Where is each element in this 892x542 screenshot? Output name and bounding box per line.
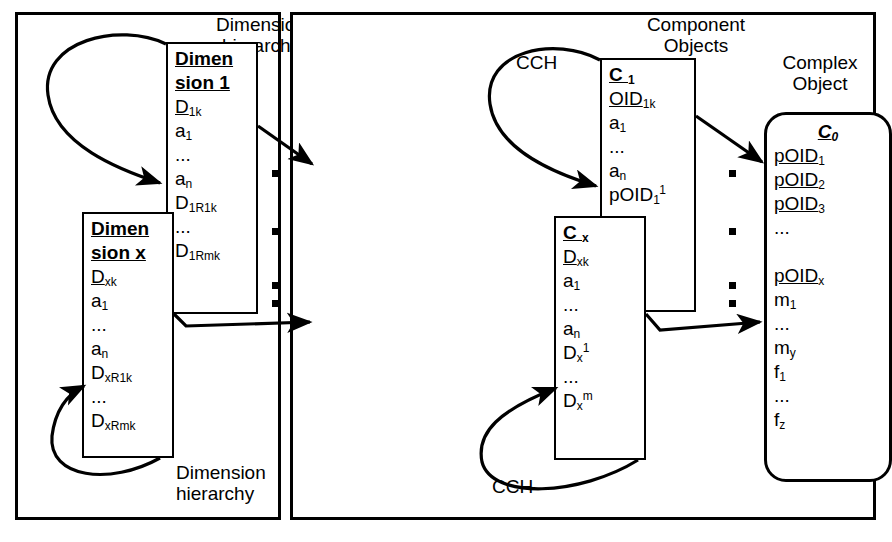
caption-component-objects: Component Objects	[626, 14, 766, 56]
component-cx-box: C xDxka1...anDx1...Dxm	[554, 216, 646, 460]
ellipsis-dot	[729, 300, 736, 307]
ellipsis-dot	[729, 282, 736, 289]
component-c1-field: a1	[609, 111, 694, 135]
dimension-1-field: a1	[175, 119, 256, 143]
ellipsis-dot	[729, 228, 736, 235]
dimension-1-field: ...	[175, 215, 256, 239]
complex-object-c0-field: pOID1	[774, 144, 889, 168]
complex-object-c0-field: pOIDx	[774, 264, 889, 288]
dimension-x-field: ...	[91, 313, 172, 337]
dimension-x-field: an	[91, 337, 172, 361]
dimension-1-field: ...	[175, 143, 256, 167]
ellipsis-dot	[729, 170, 736, 177]
complex-object-c0-field: my	[774, 336, 889, 360]
component-cx-fields: C xDxka1...anDx1...Dxm	[556, 218, 644, 413]
component-cx-field: Dxk	[563, 245, 644, 269]
dimension-1-field: an	[175, 167, 256, 191]
complex-object-c0-field: fz	[774, 408, 889, 432]
ellipsis-dot	[272, 300, 279, 307]
dimension-1-fields: Dimension 1D1ka1...anD1R1k...D1Rmk	[168, 44, 256, 263]
component-cx-field: Dx1	[563, 341, 644, 365]
component-c1-field: pOID11	[609, 183, 694, 207]
dimension-1-title-line: Dimen	[175, 47, 256, 71]
dimension-1-title-line: sion 1	[175, 71, 256, 95]
dimension-x-fields: Dimension xDxka1...anDxR1k...DxRmk	[84, 214, 172, 433]
dimension-x-field: DxRmk	[91, 409, 172, 433]
dimension-1-field: D1R1k	[175, 191, 256, 215]
component-c1-field: OID1k	[609, 87, 694, 111]
complex-object-c0-field: pOID3	[774, 192, 889, 216]
complex-object-box: C0 pOID1pOID2pOID3... pOIDxm1...myf1...f…	[764, 112, 892, 482]
component-c1-title: C 1	[609, 63, 694, 87]
label-cch-top: CCH	[516, 52, 557, 73]
complex-object-c0-field: ...	[774, 312, 889, 336]
complex-object-c0-field: pOID2	[774, 168, 889, 192]
dimension-x-field: a1	[91, 289, 172, 313]
dimension-1-field: D1Rmk	[175, 239, 256, 263]
dimension-x-title-line: sion x	[91, 241, 172, 265]
dimension-x-field: Dxk	[91, 265, 172, 289]
dimension-x-field: ...	[91, 385, 172, 409]
complex-object-c0-field: f1	[774, 360, 889, 384]
ellipsis-dot	[272, 170, 279, 177]
complex-object-c0-field	[774, 240, 889, 264]
component-cx-field: ...	[563, 365, 644, 389]
component-c1-field: an	[609, 159, 694, 183]
ellipsis-dot	[272, 228, 279, 235]
dimension-x-field: DxR1k	[91, 361, 172, 385]
complex-object-title: C0	[774, 118, 889, 144]
caption-complex-object: Complex Object	[760, 52, 880, 94]
component-cx-field: Dxm	[563, 389, 644, 413]
dimension-1-box: Dimension 1D1ka1...anD1R1k...D1Rmk	[166, 42, 258, 314]
component-cx-field: a1	[563, 269, 644, 293]
dimension-x-title-line: Dimen	[91, 217, 172, 241]
component-cx-field: an	[563, 317, 644, 341]
component-cx-title: C x	[563, 221, 644, 245]
ellipsis-dot	[272, 282, 279, 289]
component-cx-field: ...	[563, 293, 644, 317]
complex-object-c0-field: m1	[774, 288, 889, 312]
complex-object-fields: C0 pOID1pOID2pOID3... pOIDxm1...myf1...f…	[767, 115, 889, 432]
complex-object-c0-field: ...	[774, 216, 889, 240]
dimension-x-box: Dimension xDxka1...anDxR1k...DxRmk	[82, 212, 174, 458]
label-cch-bottom: CCH	[492, 476, 533, 497]
complex-object-c0-field: ...	[774, 384, 889, 408]
dimension-1-field: D1k	[175, 95, 256, 119]
component-c1-field: ...	[609, 135, 694, 159]
caption-dimension-hierarchy-bottom: Dimension hierarchy	[176, 462, 306, 504]
